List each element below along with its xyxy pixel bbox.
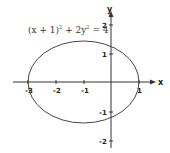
y-tick-label: -1: [99, 109, 107, 117]
y-axis-label: y: [107, 5, 113, 14]
y-tick-label: 1: [102, 51, 107, 59]
x-axis-arrow-icon: [150, 80, 156, 85]
x-tick-label: -1: [81, 87, 89, 95]
x-tick-label: 1: [137, 87, 142, 95]
x-axis-label: x: [158, 78, 164, 87]
x-tick-label: -3: [25, 87, 33, 95]
x-tick-label: -2: [53, 87, 61, 95]
ellipse-graph: -3 -2 -1 1 2 1 -1 -2 x y: [0, 0, 170, 153]
y-tick-label: -2: [99, 138, 107, 146]
equation-label: (x + 1)2 + 2y2 = 4: [28, 24, 109, 35]
